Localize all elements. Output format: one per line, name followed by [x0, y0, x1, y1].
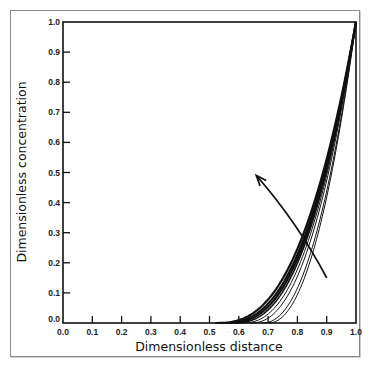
y-axis-title: Dimensionless concentration — [14, 81, 29, 262]
y-tick-label: 0.1 — [48, 288, 60, 298]
curve-line — [242, 22, 356, 323]
x-tick-label: 0.1 — [86, 327, 98, 337]
x-tick-label: 1.0 — [350, 327, 362, 337]
x-tick-label: 0.4 — [174, 327, 186, 337]
x-tick-label: 0.8 — [291, 327, 303, 337]
curve-line — [268, 22, 356, 323]
x-tick-label: 0.9 — [321, 327, 333, 337]
y-tick-label: 0.6 — [48, 137, 60, 147]
y-axis: 0.00.10.20.30.40.50.60.70.80.91.0 — [48, 17, 70, 324]
plot-area — [63, 22, 356, 323]
y-tick-label: 0.0 — [48, 314, 60, 324]
y-tick-label: 0.5 — [48, 168, 60, 178]
x-axis: 0.00.10.20.30.40.50.60.70.80.91.0 — [57, 316, 362, 337]
x-axis-title: Dimensionless distance — [135, 339, 283, 354]
x-tick-label: 0.0 — [57, 327, 69, 337]
y-tick-label: 0.4 — [48, 198, 60, 208]
y-tick-label: 1.0 — [48, 17, 60, 27]
plot-border — [63, 22, 356, 323]
y-tick-label: 0.8 — [48, 77, 60, 87]
curve-line — [262, 22, 356, 323]
x-tick-label: 0.6 — [233, 327, 245, 337]
y-tick-label: 0.7 — [48, 107, 60, 117]
y-tick-label: 0.2 — [48, 258, 60, 268]
chart: 0.00.10.20.30.40.50.60.70.80.91.0 0.00.1… — [0, 0, 376, 370]
curve-line — [251, 22, 356, 323]
x-tick-label: 0.2 — [116, 327, 128, 337]
y-tick-label: 0.9 — [48, 47, 60, 57]
y-tick-label: 0.3 — [48, 228, 60, 238]
curve-line — [233, 22, 356, 323]
curves — [215, 22, 356, 323]
x-tick-label: 0.7 — [262, 327, 274, 337]
curve-line — [227, 22, 356, 323]
x-tick-label: 0.5 — [204, 327, 216, 337]
x-tick-label: 0.3 — [145, 327, 157, 337]
